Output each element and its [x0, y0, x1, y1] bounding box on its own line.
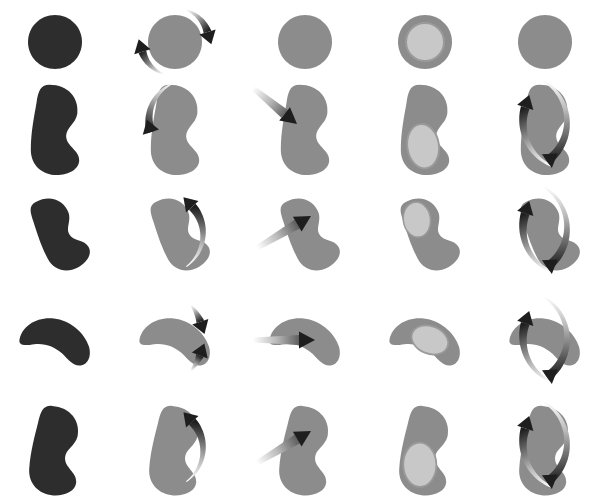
bean-shape — [28, 15, 82, 69]
cell-r5c1 — [0, 387, 120, 499]
shape-bean — [390, 190, 464, 279]
shape-circle — [398, 15, 452, 69]
shape-bean — [22, 190, 95, 278]
cell-r3c2 — [110, 172, 240, 284]
cell-r5c2 — [110, 387, 240, 499]
cell-r2c1 — [0, 66, 120, 178]
cell-r3c3 — [240, 172, 370, 284]
cell-r4c5 — [480, 282, 602, 394]
bean-shape — [392, 190, 465, 278]
bean-shape — [518, 15, 572, 69]
shape-circle — [278, 15, 332, 69]
bean-shape — [22, 190, 95, 278]
bean-shape — [31, 85, 79, 175]
cell-r4c4 — [360, 282, 490, 394]
cell-r3c4 — [360, 172, 490, 284]
cell-r5c3 — [240, 387, 370, 499]
cell-r4c2 — [110, 282, 240, 394]
cell-r2c3 — [240, 66, 370, 178]
inner-marker-ellipse — [406, 23, 444, 61]
cell-r2c2 — [110, 66, 240, 178]
cell-r3c1 — [0, 172, 120, 284]
cell-r5c4 — [360, 387, 490, 499]
bean-shape — [151, 85, 199, 175]
shape-bean — [401, 85, 449, 175]
bean-shape — [148, 15, 202, 69]
cell-r4c1 — [0, 282, 120, 394]
cell-r2c4 — [360, 66, 490, 178]
shape-bean — [281, 85, 329, 175]
shape-crescent — [387, 312, 466, 367]
shape-bean — [27, 405, 81, 497]
shape-circle — [518, 15, 572, 69]
shape-crescent — [17, 312, 96, 367]
cell-r3c5 — [480, 172, 602, 284]
bean-shape — [27, 405, 81, 497]
shape-circle — [28, 15, 82, 69]
bean-shape — [278, 15, 332, 69]
cell-r4c3 — [240, 282, 370, 394]
cell-r2c5 — [480, 66, 602, 178]
inner-marker-ellipse — [403, 442, 437, 487]
shape-bean — [31, 85, 79, 175]
bean-shape — [17, 312, 96, 367]
shape-bean — [151, 85, 199, 175]
bean-shape — [281, 85, 329, 175]
shape-circle — [148, 15, 202, 69]
shape-bean — [397, 405, 451, 497]
cell-r5c5 — [480, 387, 602, 499]
